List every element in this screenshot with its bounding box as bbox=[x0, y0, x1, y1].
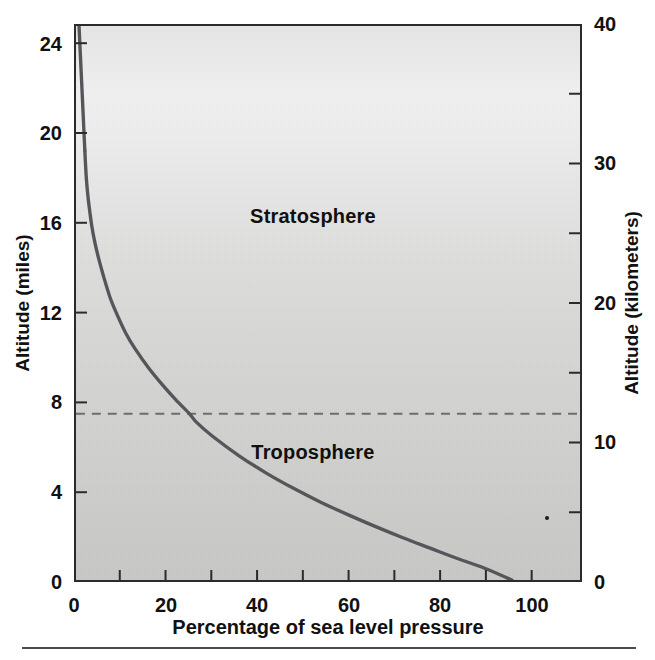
troposphere-label: Troposphere bbox=[251, 441, 374, 464]
tick-label-left-24: 24 bbox=[18, 34, 62, 54]
y-axis-title-left: Altitude (miles) bbox=[13, 153, 32, 453]
axis-ticks-svg bbox=[0, 0, 655, 660]
tick-label-bottom-100: 100 bbox=[515, 595, 548, 615]
tick-label-bottom-60: 60 bbox=[338, 595, 360, 615]
tick-label-left-20: 20 bbox=[18, 123, 62, 143]
bottom-divider-rule bbox=[22, 647, 636, 649]
tick-label-left-8: 8 bbox=[30, 392, 62, 412]
tick-label-left-4: 4 bbox=[30, 482, 62, 502]
tick-label-right-0: 0 bbox=[594, 572, 638, 592]
tick-label-right-40: 40 bbox=[594, 14, 638, 34]
tick-label-bottom-40: 40 bbox=[246, 595, 268, 615]
tick-label-left-0: 0 bbox=[30, 572, 62, 592]
scan-speck-artifact bbox=[545, 516, 549, 520]
y-axis-title-right: Altitude (kilometers) bbox=[622, 138, 641, 468]
stratosphere-label: Stratosphere bbox=[250, 205, 376, 228]
x-axis-title: Percentage of sea level pressure bbox=[74, 617, 582, 637]
tick-label-bottom-80: 80 bbox=[429, 595, 451, 615]
figure-atmospheric-pressure: 0 4 8 12 16 20 24 0 10 20 30 40 0 20 40 … bbox=[0, 0, 655, 660]
tick-label-bottom-0: 0 bbox=[68, 595, 79, 615]
tick-label-bottom-20: 20 bbox=[155, 595, 177, 615]
